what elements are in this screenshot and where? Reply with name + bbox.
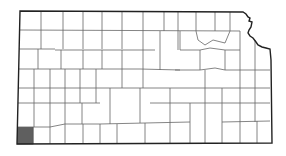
county-boundaries — [18, 12, 270, 144]
kansas-county-map — [0, 0, 286, 156]
highlighted-county-morton — [18, 128, 34, 145]
